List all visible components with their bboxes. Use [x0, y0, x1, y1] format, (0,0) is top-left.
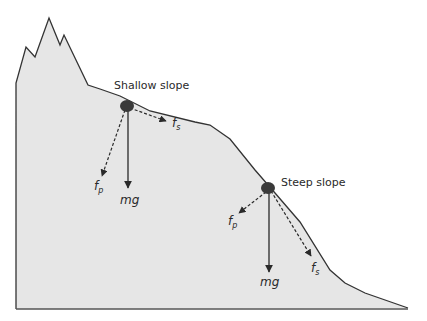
steep-slope-label: Steep slope — [281, 176, 346, 189]
steep-mg-label: mg — [260, 275, 280, 289]
shallow-mg-label: mg — [120, 193, 140, 207]
shallow-slope-label: Shallow slope — [114, 79, 190, 92]
mountain-terrain — [16, 18, 408, 309]
slope-force-diagram: Shallow slope fs fp mg Steep slope fs fp… — [0, 0, 427, 321]
shallow-rock-icon — [120, 100, 134, 112]
steep-rock-icon — [261, 182, 275, 194]
